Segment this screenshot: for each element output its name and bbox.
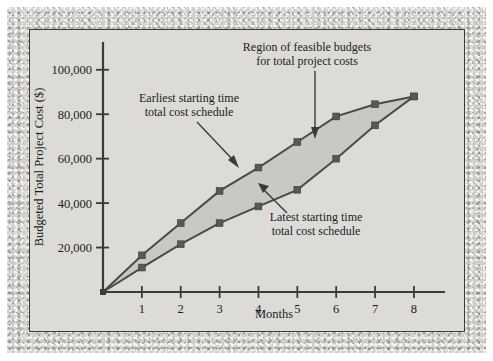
svg-text:2: 2 <box>178 302 184 316</box>
annotation-earliest-leader <box>197 122 234 161</box>
svg-text:20,000: 20,000 <box>58 241 92 255</box>
annotation-earliest-line1: Earliest starting time <box>139 91 239 105</box>
svg-text:40,000: 40,000 <box>58 197 92 211</box>
svg-text:6: 6 <box>333 302 339 316</box>
svg-text:3: 3 <box>216 302 222 316</box>
svg-text:1: 1 <box>139 302 145 316</box>
annotation-latest-line1: Latest starting time <box>270 210 363 224</box>
svg-text:8: 8 <box>411 302 417 316</box>
svg-text:100,000: 100,000 <box>51 63 92 77</box>
svg-text:80,000: 80,000 <box>58 108 92 122</box>
y-axis-tick-labels: 20,00040,00060,00080,000100,000 <box>51 63 92 255</box>
cost-schedule-chart: 20,00040,00060,00080,000100,000 12345678… <box>29 29 465 332</box>
svg-text:5: 5 <box>294 302 300 316</box>
svg-text:7: 7 <box>372 302 378 316</box>
annotation-region-line1: Region of feasible budgets <box>243 40 372 54</box>
figure-root: 20,00040,00060,00080,000100,000 12345678… <box>0 0 493 361</box>
y-axis-title: Budgeted Total Project Cost ($) <box>32 88 46 247</box>
annotation-region-line2: for total project costs <box>256 54 358 68</box>
annotation-latest-line2: total cost schedule <box>272 224 361 238</box>
origin-marker <box>100 289 106 295</box>
annotation-earliest-line2: total cost schedule <box>145 105 234 119</box>
svg-text:60,000: 60,000 <box>58 152 92 166</box>
x-axis-title: Months <box>255 307 293 321</box>
